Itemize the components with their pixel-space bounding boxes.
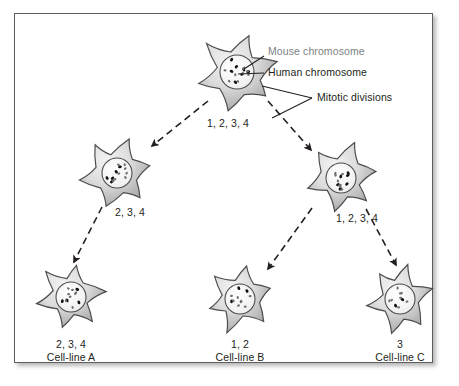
label-human-chromosome: Human chromosome (268, 66, 367, 78)
outcome-a-name: Cell-line A (47, 351, 95, 364)
label-arrow-right-chromosomes: 1, 2, 3, 4 (336, 212, 378, 224)
leader-mitotic-divisions-upper (262, 86, 312, 98)
label-arrow-top-chromosomes: 1, 2, 3, 4 (207, 117, 249, 129)
outcome-c-name: Cell-line C (375, 351, 425, 364)
diagram-canvas (0, 0, 459, 386)
mouse-chromosome-dot (246, 70, 249, 72)
cells-layer (37, 36, 433, 334)
arrow-parent-to-left (152, 101, 208, 146)
figure-container: Mouse chromosome Human chromosome Mitoti… (0, 0, 459, 386)
daughter-cell-right (308, 143, 376, 212)
outcome-c-chromosomes: 3 (397, 338, 403, 351)
cell-nucleus (385, 284, 415, 314)
label-mitotic-divisions: Mitotic divisions (317, 91, 392, 103)
cell-line-b-cell (210, 266, 271, 333)
outcome-b-name: Cell-line B (216, 351, 265, 364)
arrow-right-to-cellline-b (268, 208, 312, 269)
cell-line-a-cell (37, 265, 107, 327)
arrow-left-to-cellline-a (74, 207, 102, 262)
label-arrow-left-chromosomes: 2, 3, 4 (115, 206, 145, 218)
outcome-a-chromosomes: 2, 3, 4 (56, 338, 86, 351)
hybrid-cell (199, 36, 278, 111)
leader-mitotic-divisions-lower (272, 98, 312, 118)
label-mouse-chromosome: Mouse chromosome (268, 45, 365, 57)
arrow-parent-to-right (268, 101, 311, 150)
daughter-cell-left (79, 139, 149, 206)
cell-line-c-cell (367, 265, 433, 334)
outcome-b-chromosomes: 1, 2 (231, 338, 249, 351)
